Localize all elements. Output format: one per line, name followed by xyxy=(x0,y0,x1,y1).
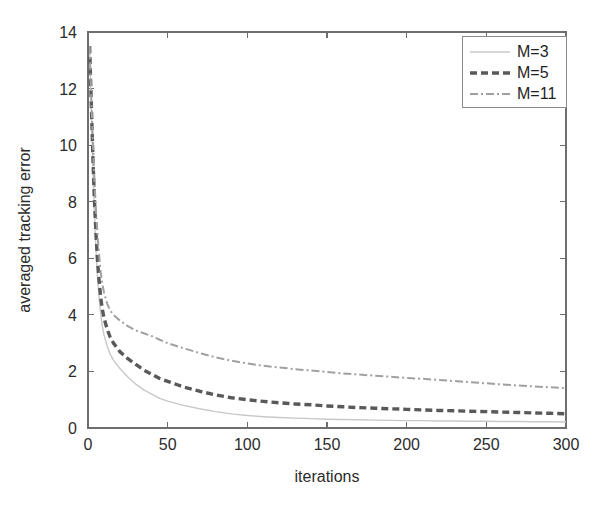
x-tick-label-50: 50 xyxy=(159,436,177,453)
y-axis-title: averaged tracking error xyxy=(16,147,33,313)
y-tick-label-14: 14 xyxy=(59,24,77,41)
legend-label-M3: M=3 xyxy=(517,43,549,60)
legend-label-M5: M=5 xyxy=(517,64,549,81)
x-tick-label-150: 150 xyxy=(314,436,341,453)
legend-label-M11: M=11 xyxy=(517,85,556,102)
y-tick-label-0: 0 xyxy=(68,420,77,437)
figure-canvas: 05010015020025030002468101214iterationsa… xyxy=(0,0,603,506)
chart-plot: 05010015020025030002468101214iterationsa… xyxy=(0,0,603,506)
y-tick-label-4: 4 xyxy=(68,307,77,324)
y-tick-label-2: 2 xyxy=(68,363,77,380)
x-tick-label-100: 100 xyxy=(234,436,261,453)
y-tick-label-12: 12 xyxy=(59,81,77,98)
x-axis-title: iterations xyxy=(295,468,360,485)
x-tick-label-250: 250 xyxy=(473,436,500,453)
x-tick-label-200: 200 xyxy=(393,436,420,453)
y-tick-label-8: 8 xyxy=(68,194,77,211)
y-tick-label-6: 6 xyxy=(68,250,77,267)
x-tick-label-300: 300 xyxy=(553,436,580,453)
x-tick-label-0: 0 xyxy=(84,436,93,453)
y-tick-label-10: 10 xyxy=(59,137,77,154)
